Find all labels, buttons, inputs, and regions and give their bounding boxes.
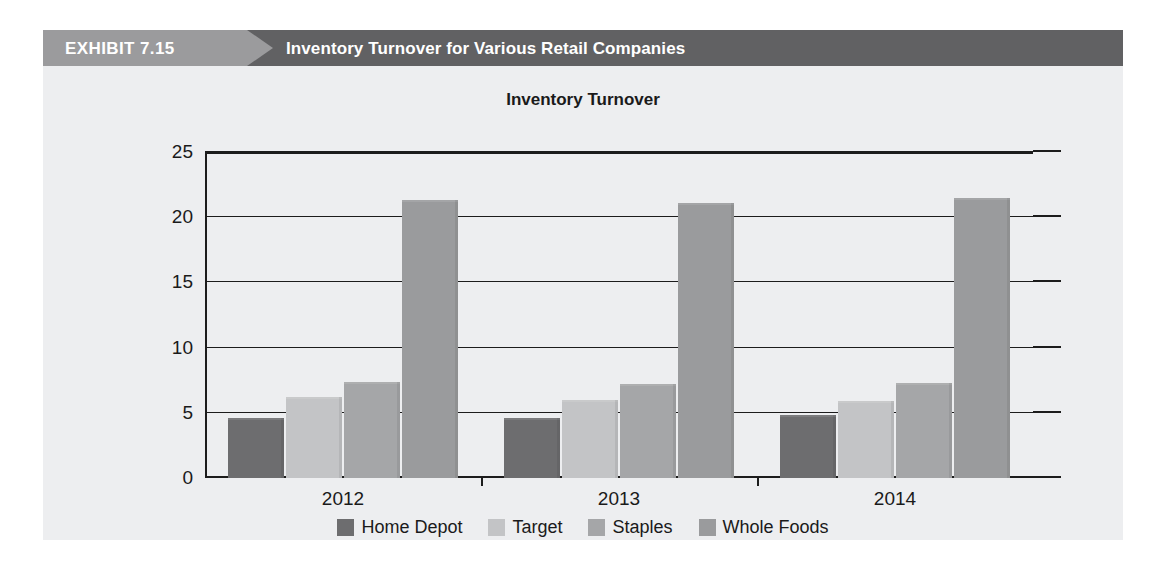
legend-item-staples: Staples <box>588 517 672 538</box>
y-axis-right-tick <box>1033 411 1061 413</box>
bar-whole-foods-2014 <box>954 198 1010 478</box>
y-axis-tick-label: 20 <box>147 206 193 228</box>
legend-swatch-icon <box>488 519 505 536</box>
legend-swatch-icon <box>699 519 716 536</box>
legend-item-home-depot: Home Depot <box>337 517 462 538</box>
legend-item-target: Target <box>488 517 562 538</box>
legend-item-whole-foods: Whole Foods <box>699 517 829 538</box>
x-axis-tick <box>481 478 483 486</box>
bar-group-2013 <box>481 152 757 478</box>
legend-label: Home Depot <box>361 517 462 538</box>
bar-group-2012 <box>205 152 481 478</box>
bar-home-depot-2014 <box>780 415 836 478</box>
exhibit-figure: EXHIBIT 7.15 Inventory Turnover for Vari… <box>43 30 1123 540</box>
chart-legend: Home DepotTargetStaplesWhole Foods <box>43 517 1123 538</box>
exhibit-banner-arrow <box>247 30 273 66</box>
bar-target-2014 <box>838 401 894 478</box>
bar-home-depot-2013 <box>504 418 560 478</box>
plot-area: 0510152025 <box>205 152 1033 478</box>
bar-home-depot-2012 <box>228 418 284 478</box>
exhibit-banner: EXHIBIT 7.15 Inventory Turnover for Vari… <box>43 30 1123 66</box>
bar-staples-2013 <box>620 384 676 478</box>
y-axis-right-tick <box>1033 476 1061 478</box>
bar-target-2013 <box>562 400 618 478</box>
bar-group-2014 <box>757 152 1033 478</box>
x-axis-label-2012: 2012 <box>322 488 364 510</box>
y-axis-tick-label: 10 <box>147 337 193 359</box>
chart-canvas: Inventory Turnover 0510152025 2012201320… <box>43 66 1123 540</box>
y-axis-right-tick <box>1033 215 1061 217</box>
legend-label: Staples <box>612 517 672 538</box>
bar-whole-foods-2013 <box>678 203 734 478</box>
y-axis-tick-label: 25 <box>147 141 193 163</box>
bar-series-container <box>205 152 1033 478</box>
exhibit-title: Inventory Turnover for Various Retail Co… <box>286 39 685 59</box>
y-axis-tick-label: 5 <box>147 402 193 424</box>
y-axis-right-tick <box>1033 346 1061 348</box>
exhibit-number-label: EXHIBIT 7.15 <box>65 39 175 59</box>
x-axis-tick <box>757 478 759 486</box>
y-axis-tick-label: 15 <box>147 271 193 293</box>
bar-staples-2014 <box>896 383 952 478</box>
bar-staples-2012 <box>344 382 400 478</box>
bar-target-2012 <box>286 397 342 478</box>
y-axis-right-tick <box>1033 280 1061 282</box>
chart-title: Inventory Turnover <box>43 90 1123 110</box>
legend-label: Whole Foods <box>723 517 829 538</box>
y-axis-right-tick <box>1033 150 1061 152</box>
y-axis-tick-label: 0 <box>147 467 193 489</box>
legend-swatch-icon <box>337 519 354 536</box>
legend-swatch-icon <box>588 519 605 536</box>
legend-label: Target <box>512 517 562 538</box>
bar-whole-foods-2012 <box>402 200 458 478</box>
x-axis-label-2014: 2014 <box>874 488 916 510</box>
x-axis-label-2013: 2013 <box>598 488 640 510</box>
